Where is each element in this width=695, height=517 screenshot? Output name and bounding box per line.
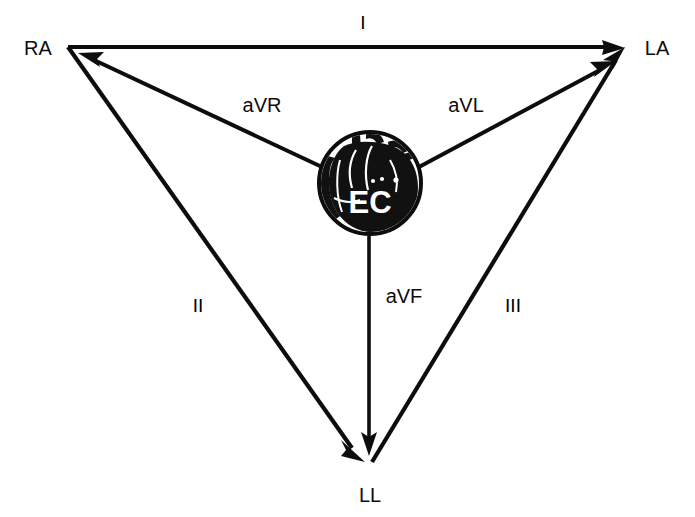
heart-ostium-dot-1 bbox=[371, 179, 375, 183]
lead-label-I: I bbox=[360, 12, 365, 33]
lead-label-III: III bbox=[505, 295, 521, 316]
vertex-label-left-arm: LA bbox=[645, 37, 670, 59]
lead-II-line bbox=[68, 47, 352, 448]
lead-I-vector bbox=[68, 40, 625, 55]
einthoven-triangle-diagram: EC RA LA LL I II III aVR aVL aVF bbox=[0, 0, 695, 517]
diagram-canvas: EC RA LA LL I II III aVR aVL aVF bbox=[0, 0, 695, 517]
lead-aVL-line bbox=[419, 70, 600, 167]
lead-III-line bbox=[372, 60, 616, 462]
lead-aVR-line bbox=[94, 60, 322, 167]
lead-III-vector bbox=[372, 47, 625, 462]
lead-label-aVF: aVF bbox=[386, 285, 423, 307]
lead-II-arrowhead bbox=[341, 440, 365, 462]
lead-label-aVL: aVL bbox=[448, 94, 484, 116]
heart-icon: EC bbox=[318, 131, 421, 234]
heart-ostium-dot-3 bbox=[393, 177, 398, 182]
lead-II-vector bbox=[68, 47, 365, 462]
heart-ostium-dot-2 bbox=[380, 177, 384, 181]
lead-label-II: II bbox=[193, 295, 204, 316]
lead-label-aVR: aVR bbox=[243, 94, 282, 116]
heart-label-EC: EC bbox=[348, 185, 391, 220]
lead-aVF-vector bbox=[361, 236, 377, 456]
vertex-label-left-leg: LL bbox=[359, 484, 381, 506]
vertex-label-right-arm: RA bbox=[24, 37, 52, 59]
